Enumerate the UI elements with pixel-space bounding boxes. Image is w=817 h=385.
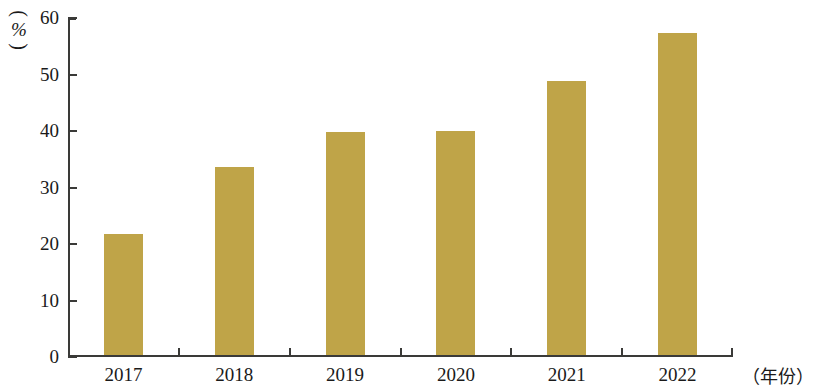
plot-area: 0102030405060 — [68, 18, 733, 357]
x-axis-tick — [289, 348, 291, 357]
y-axis-tick-label: 0 — [50, 346, 60, 368]
y-axis-label-open-paren: ( — [13, 10, 24, 17]
y-axis-tick-label: 50 — [40, 64, 59, 86]
x-axis-tick-label: 2022 — [659, 364, 697, 385]
x-axis-right-cap — [731, 348, 733, 357]
y-axis-tick: 20 — [68, 243, 77, 245]
y-axis-tick: 0 — [68, 356, 77, 358]
y-axis-tick-label: 20 — [40, 233, 59, 255]
bar — [326, 132, 365, 355]
x-axis-title: （年份） — [742, 362, 814, 385]
x-axis-tick-label: 2017 — [104, 364, 142, 385]
y-axis-tick-label: 40 — [40, 120, 59, 142]
x-axis-tick-label: 2019 — [326, 364, 364, 385]
bar — [436, 131, 475, 355]
bar — [104, 234, 143, 355]
x-axis-tick — [178, 348, 180, 357]
y-axis-tick: 50 — [68, 74, 77, 76]
x-axis-tick-label: 2018 — [215, 364, 253, 385]
x-axis-tick — [621, 348, 623, 357]
y-axis-tick-label: 30 — [40, 177, 59, 199]
y-axis-label-percent-symbol: % — [11, 19, 27, 41]
bar — [658, 33, 697, 355]
x-axis-tick — [400, 348, 402, 357]
bar-chart: ( % ) 0102030405060 20172018201920202021… — [0, 0, 817, 385]
bar — [215, 167, 254, 355]
y-axis-tick: 40 — [68, 130, 77, 132]
x-axis-tick-label: 2021 — [548, 364, 586, 385]
y-axis-unit-label: ( % ) — [2, 8, 36, 78]
y-axis-tick-label: 60 — [40, 7, 59, 29]
y-axis-tick: 10 — [68, 300, 77, 302]
y-axis-label-close-paren: ) — [13, 43, 24, 50]
x-axis-tick-label: 2020 — [437, 364, 475, 385]
y-axis-tick: 60 — [68, 17, 77, 19]
x-axis-tick — [510, 348, 512, 357]
bar — [547, 81, 586, 355]
y-axis-tick-label: 10 — [40, 290, 59, 312]
y-axis-tick: 30 — [68, 187, 77, 189]
